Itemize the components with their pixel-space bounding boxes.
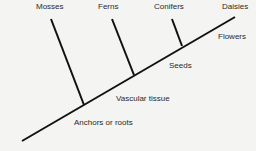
branch-mosses [51, 19, 84, 105]
trait-anchors-or-roots: Anchors or roots [74, 118, 133, 127]
trait-seeds: Seeds [169, 61, 192, 70]
taxon-ferns: Ferns [98, 2, 118, 11]
taxon-mosses: Mosses [36, 2, 64, 11]
taxon-daisies: Daisies [222, 2, 248, 11]
trait-flowers: Flowers [218, 32, 246, 41]
trait-vascular-tissue: Vascular tissue [116, 94, 170, 103]
taxon-conifers: Conifers [154, 2, 184, 11]
cladogram-lines [0, 0, 256, 151]
branch-conifers [172, 19, 182, 46]
branch-ferns [112, 19, 134, 75]
